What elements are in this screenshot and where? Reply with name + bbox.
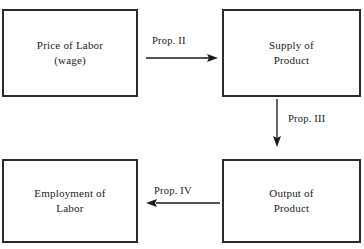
node-output-of-product-label: Output of Product (269, 186, 313, 216)
arrow-right-icon-prop-2 (146, 52, 218, 64)
arrow-down-icon-prop-3 (271, 99, 283, 147)
arrow-left-icon-prop-4 (146, 197, 220, 209)
node-price-of-labor-label: Price of Labor (wage) (37, 38, 103, 68)
edge-label-prop-4: Prop. IV (154, 186, 192, 197)
flow-diagram: Price of Labor (wage) Supply of Product … (0, 0, 364, 249)
node-employment-of-labor: Employment of Labor (2, 159, 138, 243)
node-employment-of-labor-label: Employment of Labor (34, 186, 105, 216)
edge-label-prop-3: Prop. III (288, 114, 325, 125)
node-supply-of-product-label: Supply of Product (269, 38, 314, 68)
edge-label-prop-2: Prop. II (152, 36, 186, 47)
node-price-of-labor: Price of Labor (wage) (2, 9, 138, 97)
node-supply-of-product: Supply of Product (222, 9, 361, 97)
node-output-of-product: Output of Product (222, 159, 361, 243)
